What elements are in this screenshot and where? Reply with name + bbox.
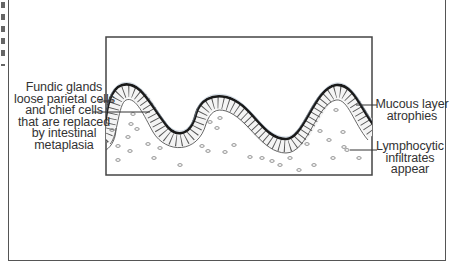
label-lymphocytic-infiltrates: Lymphocytic infiltrates appear [374, 141, 446, 176]
label-line: appear [374, 164, 446, 176]
label-line: atrophies [372, 111, 451, 123]
label-line: metaplasia [14, 140, 114, 152]
label-mucous-layer: Mucous layer atrophies [372, 99, 451, 122]
label-fundic-glands: Fundic glands loose parietal cells and c… [14, 82, 114, 151]
